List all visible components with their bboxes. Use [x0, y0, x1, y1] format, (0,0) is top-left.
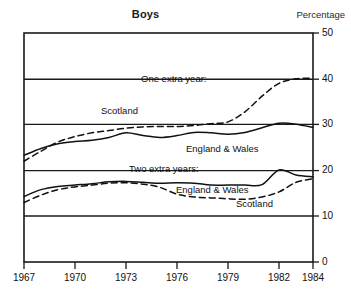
annotation-one-extra-year: One extra year:: [141, 73, 206, 84]
y-axis-ticks: [313, 33, 319, 262]
xtick-label-1973: 1973: [106, 272, 146, 283]
ytick-label-40: 40: [322, 73, 344, 84]
xtick-label-1984: 1984: [293, 272, 333, 283]
annotation-two-extra-years: Two extra years:: [129, 163, 199, 174]
plot-frame: [24, 33, 313, 262]
xtick-label-1967: 1967: [4, 272, 44, 283]
ytick-label-30: 30: [322, 118, 344, 129]
annotation-england-wales-upper: England & Wales: [186, 143, 259, 154]
ytick-label-10: 10: [322, 210, 344, 221]
annotation-scotland-lower: Scotland: [236, 198, 273, 209]
xtick-label-1976: 1976: [157, 272, 197, 283]
annotation-scotland-upper: Scotland: [101, 105, 138, 116]
plot-area: [0, 0, 351, 292]
chart-container: Boys Percentage: [0, 0, 351, 292]
ytick-label-20: 20: [322, 164, 344, 175]
ytick-label-0: 0: [322, 256, 344, 267]
annotation-england-wales-lower: England & Wales: [176, 184, 249, 195]
xtick-label-1970: 1970: [55, 272, 95, 283]
ytick-label-50: 50: [322, 27, 344, 38]
xtick-label-1979: 1979: [208, 272, 248, 283]
x-axis-ticks: [24, 262, 313, 269]
